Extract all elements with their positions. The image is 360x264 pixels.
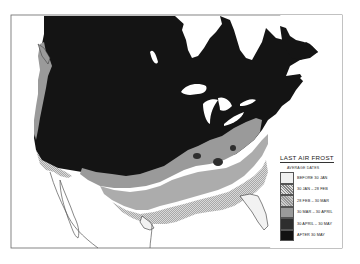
legend-swatch (280, 172, 294, 184)
legend-label: 28 FEB – 30 MAR (297, 199, 329, 203)
legend-swatch (280, 184, 294, 196)
legend-item-30-jan-28-feb: 30 JAN – 28 FEB (278, 184, 358, 196)
legend-item-before-30-jan: BEFORE 30 JAN (278, 172, 358, 184)
legend-swatch (280, 218, 294, 230)
legend-label: 30 MAR – 30 APRIL (297, 210, 333, 214)
legend-label: AFTER 30 MAY (297, 233, 325, 237)
blob-3 (230, 145, 236, 151)
legend-subtitle: AVERAGE DATES (287, 166, 358, 170)
legend-label: 30 APRIL – 30 MAY (297, 222, 332, 226)
legend-item-30-mar-30-april: 30 MAR – 30 APRIL (278, 207, 358, 219)
legend-item-28-feb-30-mar: 28 FEB – 30 MAR (278, 195, 358, 207)
legend-item-after-30-may: AFTER 30 MAY (278, 230, 358, 242)
appalachian-blob (213, 158, 223, 166)
legend-item-30-april-30-may: 30 APRIL – 30 MAY (278, 218, 358, 230)
legend-swatch (280, 195, 294, 207)
legend-title: LAST AIR FROST (280, 154, 334, 163)
legend-swatch (280, 230, 294, 242)
ozark-blob (193, 153, 201, 159)
legend-label: 30 JAN – 28 FEB (297, 187, 328, 191)
legend-label: BEFORE 30 JAN (297, 176, 327, 180)
legend: LAST AIR FROST AVERAGE DATES BEFORE 30 J… (278, 146, 358, 241)
legend-swatch (280, 207, 294, 219)
